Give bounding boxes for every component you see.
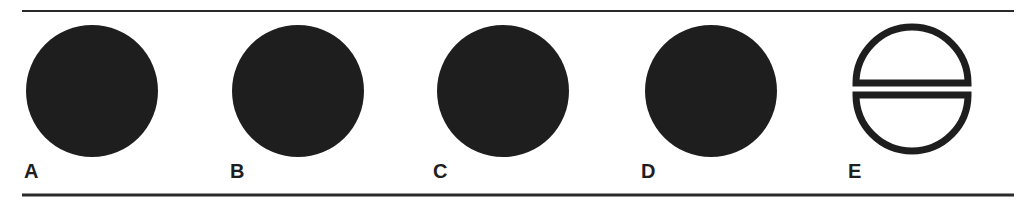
label-d: D	[641, 160, 655, 182]
label-b: B	[230, 160, 244, 182]
circle-c	[437, 25, 569, 157]
label-e: E	[848, 160, 861, 182]
circle-b	[232, 25, 364, 157]
label-c: C	[433, 160, 447, 182]
circle-d	[645, 25, 777, 157]
label-a: A	[24, 160, 38, 182]
split-circle-e	[856, 27, 968, 151]
circle-a	[26, 25, 158, 157]
figure-canvas: A B C D E	[0, 0, 1016, 207]
